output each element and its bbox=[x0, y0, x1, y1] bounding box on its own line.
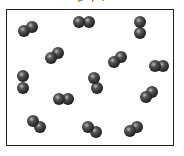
diatomic-molecule bbox=[27, 115, 46, 133]
atom-sphere bbox=[134, 27, 146, 39]
diatomic-molecule bbox=[82, 121, 102, 138]
atom-sphere bbox=[18, 25, 30, 37]
atom-sphere bbox=[140, 91, 152, 103]
atom-sphere bbox=[17, 82, 29, 94]
diatomic-molecule bbox=[73, 16, 95, 28]
diatomic-molecule bbox=[149, 60, 169, 72]
atom-sphere bbox=[53, 93, 65, 105]
atom-sphere bbox=[134, 16, 146, 28]
diatomic-molecule bbox=[45, 47, 64, 64]
diatomic-molecule bbox=[17, 70, 29, 94]
atom-sphere bbox=[88, 72, 100, 84]
diatomic-molecule bbox=[88, 72, 103, 94]
diatomic-molecule bbox=[53, 93, 74, 105]
diatomic-molecule bbox=[140, 86, 158, 103]
atom-sphere bbox=[108, 56, 120, 68]
diatomic-molecule bbox=[18, 21, 38, 37]
diatomic-molecule bbox=[108, 51, 127, 68]
diatomic-molecule bbox=[134, 16, 146, 39]
atom-sphere bbox=[82, 121, 94, 133]
atom-sphere bbox=[45, 52, 57, 64]
atom-sphere bbox=[149, 60, 161, 72]
diatomic-molecule bbox=[124, 121, 143, 137]
molecules-layer bbox=[0, 0, 184, 156]
atom-sphere bbox=[27, 115, 39, 127]
atom-sphere bbox=[17, 70, 29, 82]
atom-sphere bbox=[73, 16, 85, 28]
atom-sphere bbox=[124, 125, 136, 137]
